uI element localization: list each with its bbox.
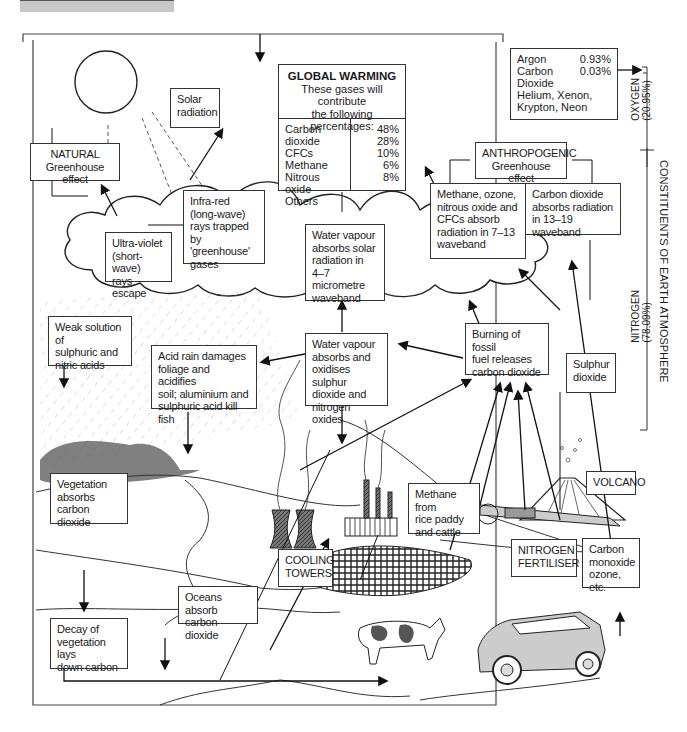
sulphur-dioxide-label: Sulphur dioxide (566, 353, 616, 393)
label-line: Vegetation (57, 478, 121, 491)
label-line: absorbs carbon (57, 491, 121, 516)
label-line: Water vapour (312, 338, 381, 351)
label-line: radiation in 4–7 (312, 254, 378, 279)
label-line: Oceans absorb (185, 591, 251, 616)
label-line: COOLING (285, 554, 326, 567)
gas-pct: 28% (357, 135, 399, 147)
carbon-monoxide-label: Carbon monoxide ozone, etc. (582, 538, 640, 588)
label-line: gases (190, 258, 258, 271)
car-icon (478, 612, 605, 684)
decay-vegetation-label: Decay of vegetation lays down carbon (50, 618, 128, 669)
side-title: CONSTITUENTS OF EARTH ATMOSPHERE (658, 160, 670, 383)
label-line: sulphuric acid kill fish (158, 400, 250, 425)
weak-solution-label: Weak solution of sulphuric and nitric ac… (48, 316, 132, 366)
label-line: ozone, etc. (589, 568, 633, 593)
label-line: dioxide and (312, 388, 381, 401)
solar-radiation-label: Solar radiation (170, 88, 220, 128)
gas-name: CFCs (285, 147, 344, 159)
label-line: sulphuric and (55, 346, 125, 359)
methane-rice-label: Methane from rice paddy and cattle (408, 483, 480, 534)
label-line: oxidises sulphur (312, 363, 381, 388)
gas-name: Others (285, 195, 344, 207)
factory-icon (345, 480, 397, 536)
oxygen-name: OXYGEN (630, 78, 641, 121)
co2-absorbs-label: Carbon dioxide absorbs radiation in 13–1… (525, 183, 621, 235)
label-line: nitrogen oxides (312, 401, 381, 426)
label-line: radiation in 7–13 (437, 226, 519, 239)
label-line: rays escape (112, 275, 165, 300)
label-line: Acid rain damages (158, 350, 250, 363)
label-line: CFCs absorb (437, 213, 519, 226)
gas-pct: 8% (357, 171, 399, 183)
label-line: (long-wave) (190, 208, 258, 221)
gas-name: Helium, Xenon, (517, 89, 592, 101)
gas-name: Krypton, Neon (517, 101, 587, 113)
label-line: waveband (312, 292, 378, 305)
label-line: radiation (177, 106, 213, 119)
oxygen-pct: (20.95%) (641, 80, 652, 121)
label-line: Carbon dioxide (532, 188, 614, 201)
label-line: rice paddy (415, 513, 473, 526)
label-line: in 13–19 waveband (532, 213, 614, 238)
label-line: micrometre (312, 279, 378, 292)
label-line: (short-wave) (112, 250, 165, 275)
label-line: Sulphur (573, 358, 609, 371)
label-line: carbon dioxide (472, 366, 542, 379)
label-line: down carbon (57, 661, 121, 674)
label-line: Greenhouse effect (37, 161, 113, 186)
label-line: monoxide (589, 556, 633, 569)
nitrogen-pct: (78.09%) (641, 302, 652, 343)
nitrogen-name: NITROGEN (630, 290, 641, 343)
label-line: Greenhouse effect (482, 160, 560, 185)
global-warming-title: GLOBAL WARMING (281, 70, 403, 83)
label-line: VOLCANO (593, 476, 629, 489)
oxygen-label: OXYGEN (20.95%) (630, 78, 652, 121)
global-warming-subtitle: These gases will contribute (281, 83, 403, 108)
methane-ozone-label: Methane, ozone, nitrous oxide and CFCs a… (430, 183, 526, 259)
label-line: and cattle (415, 526, 473, 539)
label-line: dioxide (573, 371, 609, 384)
label-line: absorbs solar (312, 242, 378, 255)
acid-rain-label: Acid rain damages foliage and acidifies … (151, 345, 257, 409)
label-line: soil; aluminium and (158, 388, 250, 401)
global-warming-box: GLOBAL WARMING These gases will contribu… (278, 64, 406, 191)
water-vapour-oxidises-label: Water vapour absorbs and oxidises sulphu… (305, 333, 388, 406)
oceans-absorb-label: Oceans absorb carbon dioxide (178, 586, 258, 624)
label-line: rays trapped by (190, 220, 258, 245)
label-line: absorbs and (312, 351, 381, 364)
gas-pct: 10% (357, 147, 399, 159)
water-vapour-solar-label: Water vapour absorbs solar radiation in … (305, 224, 385, 301)
nitrogen-label: NITROGEN (78.09%) (630, 290, 652, 343)
label-line: Infra-red (190, 195, 258, 208)
label-line: vegetation lays (57, 636, 121, 661)
gas-value: 0.93% (580, 53, 611, 65)
label-line: Weak solution of (55, 321, 125, 346)
label-line: 'greenhouse' (190, 245, 258, 258)
label-line: NATURAL (37, 148, 113, 161)
gas-pct: 6% (357, 159, 399, 171)
burning-fossil-fuel-label: Burning of fossil fuel releases carbon d… (465, 323, 549, 375)
anthropogenic-greenhouse-label: ANTHROPOGENIC Greenhouse effect (475, 142, 567, 179)
sun-icon (75, 51, 137, 113)
label-line: Decay of (57, 623, 121, 636)
cooling-towers-icon (270, 510, 316, 548)
label-line: dioxide (57, 516, 121, 529)
label-line: NITROGEN (518, 544, 570, 557)
gas-name: Nitrous oxide (285, 171, 344, 195)
label-line: Burning of fossil (472, 328, 542, 353)
trace-gases-box: Argon0.93% Carbon Dioxide0.03% Helium, X… (510, 48, 618, 120)
label-line: ANTHROPOGENIC (482, 147, 560, 160)
atmosphere-bracket (618, 67, 654, 430)
natural-greenhouse-label: NATURAL Greenhouse effect (30, 143, 120, 181)
gas-value: 0.03% (580, 65, 611, 89)
gas-name: Carbon Dioxide (517, 65, 580, 89)
label-line: fuel releases (472, 353, 542, 366)
cooling-towers-label: COOLING TOWERS (278, 549, 333, 587)
label-line: nitrous oxide and (437, 201, 519, 214)
label-line: Carbon (589, 543, 633, 556)
label-line: nitric acids (55, 359, 125, 372)
label-line: carbon dioxide (185, 616, 251, 641)
label-line: waveband (437, 238, 519, 251)
label-line: Ultra-violet (112, 237, 165, 250)
label-line: Methane, ozone, (437, 188, 519, 201)
